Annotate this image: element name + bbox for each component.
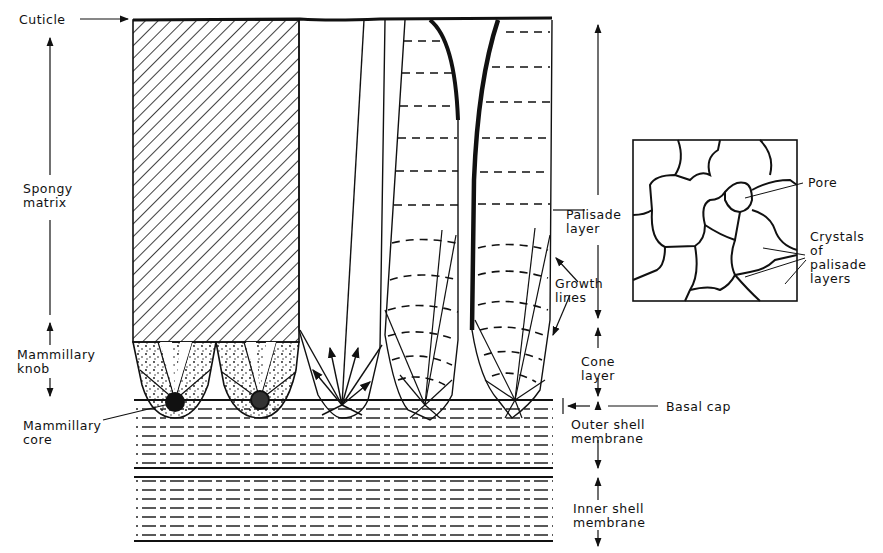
- eggshell-structure-diagram: [0, 0, 883, 553]
- label-basal-cap: Basal cap: [666, 400, 731, 414]
- label-palisade-layer: Palisade layer: [566, 208, 621, 236]
- cuticle-layer: [133, 18, 552, 20]
- inner-shell-membrane: [134, 477, 553, 541]
- column-spongy-matrix: [133, 20, 299, 418]
- column-cone-arrows: [299, 20, 385, 418]
- label-inner-shell-membrane: Inner shell membrane: [573, 502, 645, 530]
- column-palisade-growth-lines: [385, 20, 458, 420]
- label-pore: Pore: [808, 176, 837, 190]
- label-mammillary-core: Mammillary core: [23, 419, 101, 447]
- label-mammillary-knob: Mammillary knob: [17, 348, 95, 376]
- label-cuticle: Cuticle: [19, 13, 66, 27]
- outer-shell-membrane: [134, 402, 553, 468]
- label-growth-lines: Growth lines: [555, 277, 603, 305]
- column-palisade-growth-lines-2: [472, 20, 552, 418]
- label-spongy-matrix: Spongy matrix: [23, 182, 73, 210]
- mammillary-core-dark: [165, 392, 185, 412]
- label-cone-layer: Cone layer: [581, 355, 615, 383]
- label-crystals-of-palisade-layers: Crystals of palisade layers: [810, 230, 866, 286]
- palisade-crystals-inset: [633, 140, 797, 301]
- label-outer-shell-membrane: Outer shell membrane: [571, 418, 645, 446]
